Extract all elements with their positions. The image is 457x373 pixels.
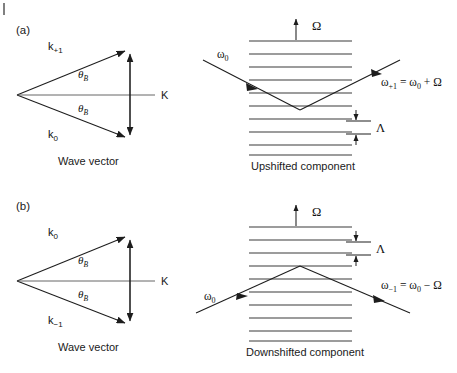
k-plus1-vector-arrow	[17, 51, 125, 95]
theta-b-lower-label-b: θB	[78, 288, 88, 303]
panel-a-grating-caption: Upshifted component	[251, 160, 355, 172]
panel-b-grating-caption: Downshifted component	[246, 346, 364, 358]
panel-b-wave-vector-diagram: k0 k−1 θB θB K Wave vector	[17, 226, 169, 353]
theta-b-upper-label: θB	[78, 68, 88, 83]
grating-lines-b	[249, 227, 352, 341]
grating-vector-K-label-b: K	[161, 275, 169, 287]
theta-b-upper-label-b: θB	[78, 254, 88, 269]
period-marker-b: Λ	[346, 231, 385, 266]
period-marker-a: Λ	[346, 110, 385, 145]
lambda-label-b: Λ	[376, 242, 385, 256]
panel-a-wave-vector-diagram: k+1 k0 θB θB K Wave vector	[17, 40, 169, 167]
panel-b-grating-diagram: Ω ω0 ω−1 = ω0 − Ω	[196, 205, 442, 358]
grating-lines-a	[249, 41, 352, 155]
panel-b-wave-vector-caption: Wave vector	[58, 341, 119, 353]
figure-root: (a) k+1 k0 θB θB K Wave vector Ω	[0, 0, 457, 373]
incident-ray-arrowhead-b	[236, 293, 248, 300]
panel-a-tag: (a)	[16, 24, 30, 36]
k-minus1-vector-arrow-b	[17, 281, 125, 323]
k0-label-b: k0	[48, 226, 59, 241]
omega-capital-label-b: Ω	[312, 205, 321, 219]
panel-a-grating-diagram: Ω ω0 ω+1 = ω0 + Ω	[203, 19, 442, 172]
k0-vector-arrow	[17, 95, 125, 137]
lambda-label-a: Λ	[376, 121, 385, 135]
panel-b-tag: (b)	[16, 200, 30, 212]
panel-a-wave-vector-caption: Wave vector	[58, 155, 119, 167]
omega-capital-label-a: Ω	[312, 19, 321, 33]
k-plus1-label: k+1	[48, 40, 63, 55]
theta-b-lower-label: θB	[78, 102, 88, 117]
grating-vector-K-label: K	[161, 89, 169, 101]
incident-ray-b	[196, 266, 300, 313]
downshifted-expression-label: ω−1 = ω0 − Ω	[381, 279, 442, 294]
omega0-incident-label-a: ω0	[217, 48, 229, 63]
k-minus1-label-b: k−1	[48, 314, 63, 329]
figure-canvas: (a) k+1 k0 θB θB K Wave vector Ω	[0, 0, 457, 373]
k0-vector-arrow-b	[17, 237, 125, 281]
omega0-incident-label-b: ω0	[204, 290, 216, 305]
k0-label: k0	[48, 128, 59, 143]
upshifted-expression-label: ω+1 = ω0 + Ω	[381, 76, 442, 91]
